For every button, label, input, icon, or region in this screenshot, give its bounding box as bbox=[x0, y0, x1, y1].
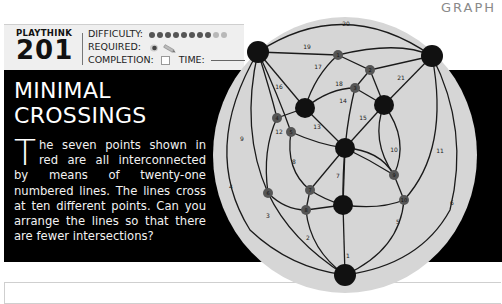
crossing-label: 4 bbox=[275, 115, 278, 121]
node-f bbox=[333, 195, 353, 215]
edge-label: 7 bbox=[336, 172, 340, 179]
crossing-label: 1 bbox=[336, 52, 339, 58]
node-e bbox=[335, 138, 355, 158]
edge-label: 12 bbox=[275, 128, 283, 135]
node-d bbox=[374, 95, 394, 115]
edge-label: 20 bbox=[342, 20, 350, 27]
edge-label: 1 bbox=[346, 252, 350, 259]
edge-label: 4 bbox=[229, 183, 233, 190]
crossing-label: 8 bbox=[304, 207, 307, 213]
crossing-label: 3 bbox=[353, 85, 356, 91]
crossing-label: 2 bbox=[368, 67, 371, 73]
edge-label: 17 bbox=[314, 63, 322, 70]
edge-label: 9 bbox=[240, 135, 244, 142]
edge-label: 10 bbox=[390, 146, 398, 153]
edge-label: 18 bbox=[335, 80, 343, 87]
crossing-label: 5 bbox=[289, 129, 292, 135]
edge-label: 11 bbox=[436, 147, 444, 154]
edge-label: 8 bbox=[292, 158, 296, 165]
edge-label: 15 bbox=[359, 114, 367, 121]
node-a bbox=[247, 41, 269, 63]
edge-label: 5 bbox=[396, 218, 400, 225]
edge-label: 21 bbox=[397, 74, 405, 81]
edge-label: 16 bbox=[275, 83, 283, 90]
crossing-label: 6 bbox=[266, 190, 269, 196]
node-c bbox=[295, 98, 315, 118]
node-g bbox=[334, 264, 356, 286]
edge-label: 14 bbox=[339, 97, 347, 104]
crossing-label: 7 bbox=[308, 187, 311, 193]
edge-label: 2 bbox=[306, 234, 310, 241]
node-b bbox=[421, 45, 443, 67]
edge-label: 13 bbox=[313, 123, 321, 130]
edge-label: 19 bbox=[303, 43, 311, 50]
crossing-label: 10 bbox=[401, 197, 407, 203]
edge-label: 6 bbox=[450, 199, 454, 206]
crossing-label: 9 bbox=[392, 172, 395, 178]
edge-label: 3 bbox=[266, 212, 270, 219]
